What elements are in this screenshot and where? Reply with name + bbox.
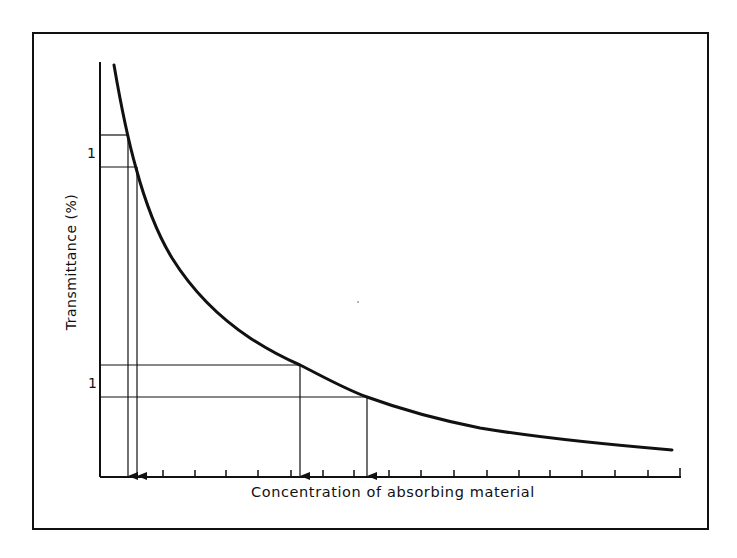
lower-interval-lines <box>100 365 367 397</box>
print-speck <box>357 301 359 303</box>
y-axis-label: Transmittance (%) <box>63 194 79 331</box>
x-axis-label: Concentration of absorbing material <box>251 484 535 500</box>
figure-frame <box>33 33 708 529</box>
drop-arrows <box>128 135 367 476</box>
transmittance-curve <box>114 65 672 450</box>
x-ticks <box>163 468 680 477</box>
chart: 1 1 Transmittance (%) Concentration of a… <box>0 0 737 558</box>
lower-interval-label: 1 <box>88 375 97 391</box>
upper-interval-label: 1 <box>87 145 96 161</box>
